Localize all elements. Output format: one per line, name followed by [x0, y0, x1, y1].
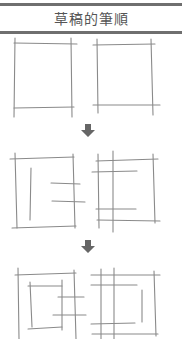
step-1-right-frame [93, 39, 160, 115]
step-3-left-figure [15, 268, 86, 339]
step-2-left-figure [10, 153, 85, 228]
step-2-right-figure [92, 151, 160, 232]
step-1-left-frame [14, 38, 77, 117]
stroke-order-diagram [0, 0, 189, 339]
down-arrow-icon [81, 124, 95, 137]
down-arrow-icon [81, 240, 95, 253]
step-3-right-figure [91, 268, 160, 339]
